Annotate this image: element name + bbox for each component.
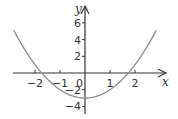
x-axis-label: x (162, 75, 169, 89)
y-tick-label: 2 (74, 50, 81, 63)
x-tick-label: −2 (27, 77, 43, 90)
y-tick-label: −4 (65, 100, 81, 113)
origin-label: 0 (76, 77, 83, 90)
y-axis-label: y (74, 2, 82, 16)
ticks: −2−112−4−2246 (27, 17, 139, 114)
axis-labels: x y 0 (74, 2, 169, 90)
y-tick-label: 4 (74, 34, 81, 47)
x-tick-label: 2 (132, 77, 139, 90)
parabola-chart: −2−112−4−2246 x y 0 (0, 0, 178, 119)
y-tick-label: 6 (74, 17, 81, 30)
